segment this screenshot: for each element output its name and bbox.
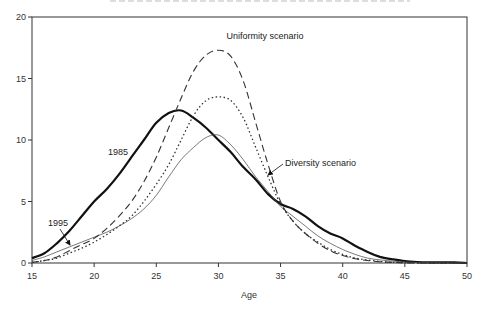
series-line-1985 (32, 110, 467, 263)
y-axis: 05101520 (16, 12, 32, 268)
series-layer (32, 50, 467, 263)
plot-area (32, 17, 467, 263)
label-1985: 1985 (108, 147, 128, 157)
x-tick-label: 50 (462, 271, 472, 281)
x-tick-label: 20 (89, 271, 99, 281)
series-line-uniformity-scenario (32, 50, 467, 263)
x-axis-title: Age (241, 290, 257, 300)
series-line-diversity-scenario (32, 97, 467, 263)
x-tick-label: 30 (213, 271, 223, 281)
diversity-scenario-label: Diversity scenario (285, 158, 356, 168)
label-1995: 1995 (48, 218, 68, 228)
uniformity-scenario-label: Uniformity scenario (226, 31, 303, 41)
y-tick-label: 10 (16, 135, 26, 145)
age-fertility-line-chart: 05101520 1520253035404550 Uniformity sce… (0, 0, 485, 313)
x-axis: 1520253035404550 (27, 263, 472, 281)
y-tick-label: 15 (16, 74, 26, 84)
x-tick-label: 40 (338, 271, 348, 281)
y-tick-label: 0 (21, 258, 26, 268)
y-tick-label: 5 (21, 197, 26, 207)
diversity-arrow-icon (268, 164, 283, 175)
x-tick-label: 15 (27, 271, 37, 281)
y-tick-label: 20 (16, 12, 26, 22)
x-tick-label: 45 (400, 271, 410, 281)
x-tick-label: 35 (276, 271, 286, 281)
x-tick-label: 25 (151, 271, 161, 281)
